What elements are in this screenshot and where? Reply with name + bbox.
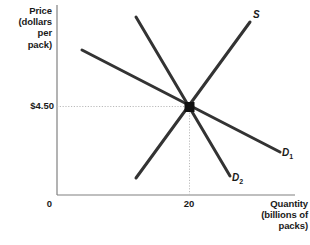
- supply-curve-label: S: [253, 9, 260, 21]
- y-axis-tick-label-price: $4.50: [8, 100, 54, 111]
- supply-demand-chart: Price(dollarsperpack) Quantity(billions …: [0, 0, 310, 245]
- x-axis-title: Quantity(billions ofpacks): [222, 198, 308, 232]
- y-axis-title-line4: pack): [28, 39, 52, 50]
- x-axis-title-line1: Quantity: [270, 198, 308, 209]
- origin-label: 0: [36, 198, 52, 209]
- y-axis-title-line2: (dollars: [18, 16, 52, 27]
- demand-curve-d2-label: D2: [232, 172, 243, 186]
- demand-curve-d1: [82, 50, 280, 152]
- demand-curve-d2-label-sub: 2: [239, 178, 243, 185]
- x-axis-title-line3: packs): [278, 220, 308, 231]
- x-axis-title-line2: (billions of: [261, 209, 308, 220]
- y-axis-title-line3: per: [38, 27, 52, 38]
- demand-curve-d1-label: D1: [282, 147, 293, 161]
- demand-curve-d2: [136, 17, 230, 176]
- y-axis-title-line1: Price: [29, 5, 52, 16]
- supply-curve-label-text: S: [253, 9, 260, 20]
- equilibrium-point-marker: [185, 102, 195, 112]
- x-axis-tick-label-quantity: 20: [176, 198, 202, 209]
- demand-curve-d1-label-sub: 1: [289, 153, 293, 160]
- y-axis-title: Price(dollarsperpack): [0, 5, 52, 50]
